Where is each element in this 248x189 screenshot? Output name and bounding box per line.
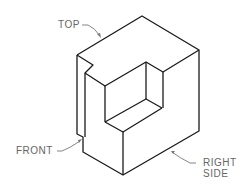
label-front: FRONT — [16, 146, 53, 156]
label-top: TOP — [58, 20, 80, 30]
leader-arrows — [78, 33, 175, 154]
right-side-leader — [172, 152, 196, 163]
leader-lines — [57, 25, 196, 163]
top-leader — [82, 25, 100, 36]
label-right-line2: SIDE — [203, 169, 228, 179]
top-arrow-icon — [97, 33, 101, 38]
label-right-line1: RIGHT — [203, 158, 237, 168]
block-outline — [77, 16, 199, 175]
front-leader — [57, 141, 80, 151]
